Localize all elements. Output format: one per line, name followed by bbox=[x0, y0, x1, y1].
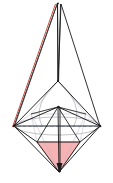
vertex-marker-node-center bbox=[57, 106, 59, 108]
figure-container: 3D polyhedron wireframe Elongated bipyra… bbox=[0, 0, 113, 183]
polyhedron-wireframe: 3D polyhedron wireframe Elongated bipyra… bbox=[0, 0, 113, 183]
vertex-marker-node-upper bbox=[57, 80, 59, 82]
vertex-marker-apex-top bbox=[57, 3, 59, 5]
vertex-marker-left bbox=[13, 125, 15, 127]
vertex-marker-right bbox=[99, 125, 101, 127]
